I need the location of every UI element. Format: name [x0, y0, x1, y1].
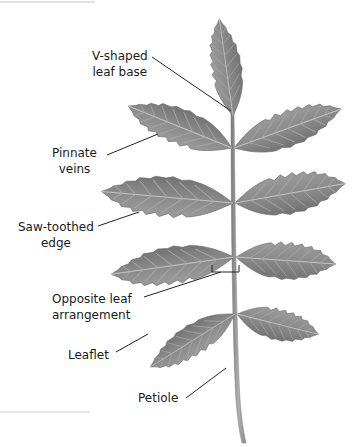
- leaflet-pair-2-left: [100, 171, 235, 223]
- label-line: Opposite leaf: [52, 291, 132, 307]
- leaflet-pair-3-right: [235, 239, 337, 284]
- label-opposite-leaf-arrangement: Opposite leaf arrangement: [52, 291, 132, 323]
- label-line: leaf base: [92, 64, 148, 80]
- terminal-leaflet: [204, 17, 248, 118]
- label-line: arrangement: [52, 307, 132, 323]
- label-leaflet: Leaflet: [68, 347, 109, 363]
- label-pinnate-veins: Pinnate veins: [52, 145, 97, 177]
- leaflet-pair-1-right: [228, 92, 348, 165]
- label-line: Pinnate: [52, 145, 97, 161]
- leader-line-petiole: [186, 368, 226, 398]
- leaflet-pair-4-right: [233, 299, 322, 350]
- label-petiole: Petiole: [138, 390, 178, 406]
- page-edge-top: [0, 1, 95, 3]
- page-edge-bottom: [0, 411, 90, 413]
- label-line: Leaflet: [68, 347, 109, 363]
- leaflet-pair-4-left: [142, 301, 243, 380]
- label-line: Saw-toothed: [18, 219, 94, 235]
- label-line: Petiole: [138, 390, 178, 406]
- leaflet-pair-2-right: [232, 164, 349, 224]
- leaflet-pair-3-left: [109, 238, 237, 293]
- label-saw-toothed-edge: Saw-toothed edge: [18, 219, 94, 251]
- label-v-shaped-leaf-base: V-shaped leaf base: [92, 48, 148, 80]
- rachis-stem: [231, 110, 246, 443]
- leader-line-saw-toothed: [98, 212, 139, 226]
- label-line: edge: [18, 235, 94, 251]
- leader-line-pinnate-veins: [107, 134, 158, 155]
- label-line: veins: [52, 161, 97, 177]
- label-line: V-shaped: [92, 48, 148, 64]
- leader-line-leaflet: [116, 334, 148, 352]
